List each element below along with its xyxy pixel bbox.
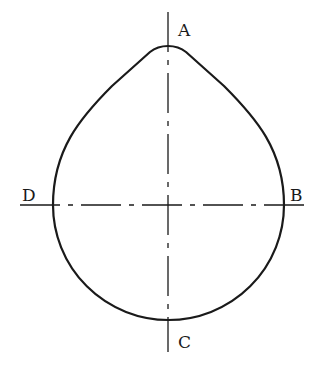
label-d: D [22, 185, 36, 205]
label-c: C [178, 332, 191, 352]
teardrop-diagram: A B C D [0, 0, 334, 373]
label-a: A [177, 20, 191, 40]
label-b: B [290, 185, 303, 205]
